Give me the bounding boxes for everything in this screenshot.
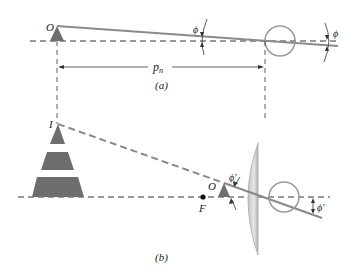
panel-b: I O F ϕ′ ϕ′ (b) bbox=[18, 118, 330, 264]
virtual-ray bbox=[58, 124, 224, 183]
pn-label: pn bbox=[152, 60, 163, 75]
ray-b bbox=[224, 183, 322, 218]
panel-a: pn O ϕ ϕ (a) bbox=[30, 19, 338, 124]
angle-arc-a-right bbox=[324, 23, 329, 62]
angle-arrow-icon-b3 bbox=[311, 198, 315, 203]
phi-prime-label-b-left: ϕ′ bbox=[229, 172, 237, 183]
angle-arrow-up-icon bbox=[200, 42, 204, 47]
arrowhead-right-icon bbox=[258, 65, 264, 69]
caption-a: (a) bbox=[155, 79, 168, 92]
magnifier-diagram: pn O ϕ ϕ (a) I O F bbox=[0, 0, 358, 276]
image-bottom-segment bbox=[32, 177, 84, 197]
object-label-b: O bbox=[208, 180, 216, 192]
phi-label-a-right: ϕ bbox=[333, 28, 338, 39]
image-middle-segment bbox=[41, 152, 74, 170]
object-label-a: O bbox=[46, 21, 54, 33]
phi-prime-label-b-right: ϕ′ bbox=[317, 202, 325, 213]
angle-arrow-icon-b2 bbox=[229, 198, 234, 204]
caption-b: (b) bbox=[155, 251, 168, 264]
focal-point bbox=[200, 194, 205, 199]
phi-label-a-left: ϕ bbox=[193, 24, 198, 35]
image-label: I bbox=[48, 118, 54, 130]
lens bbox=[248, 143, 258, 255]
arrowhead-left-icon bbox=[58, 65, 64, 69]
focal-point-label: F bbox=[198, 202, 206, 214]
